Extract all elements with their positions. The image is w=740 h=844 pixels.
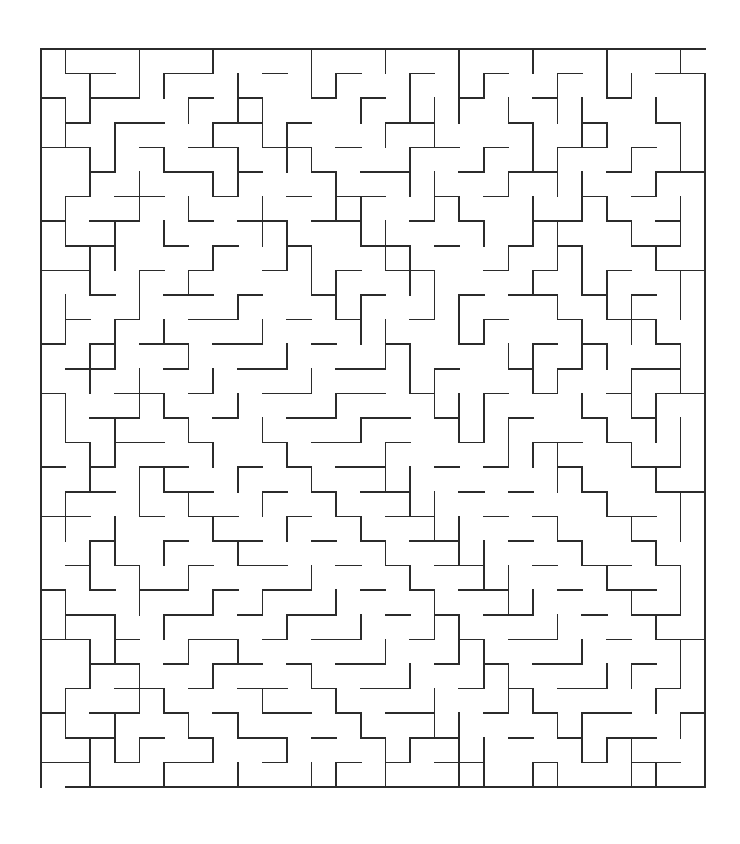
maze-page bbox=[0, 0, 740, 844]
maze-background bbox=[0, 0, 740, 844]
maze-canvas bbox=[0, 0, 740, 844]
